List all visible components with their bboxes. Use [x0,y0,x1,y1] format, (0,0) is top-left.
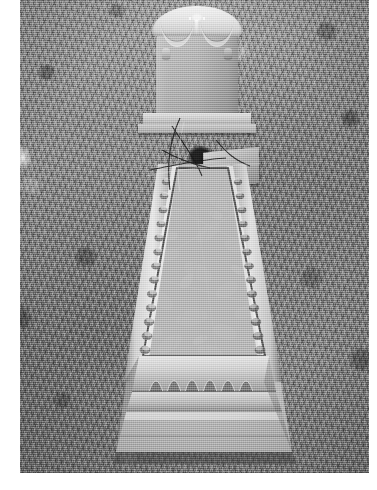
photograph [20,0,369,473]
screenshot-root: Black and white photograph looking down … [0,0,377,490]
